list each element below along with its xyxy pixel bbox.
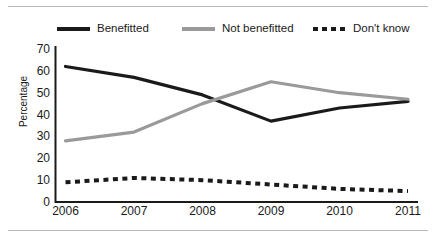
chart-canvas [0, 0, 436, 241]
series-line-not-benefitted [66, 82, 409, 141]
plot-area: Percentage 010203040506070 2006200720082… [0, 0, 436, 241]
series-line-don-t-know [66, 178, 409, 191]
chart-figure: Benefitted Not benefitted Don't know Per… [0, 0, 436, 241]
axis-spine [56, 46, 419, 202]
